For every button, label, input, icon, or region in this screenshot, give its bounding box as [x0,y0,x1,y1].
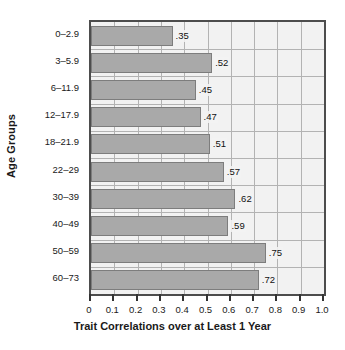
x-axis-tick-mark [299,294,301,301]
bar-value-label: .51 [212,138,227,150]
bar-value-label: .59 [230,220,245,232]
x-axis-tick-label: 0.1 [106,303,119,316]
y-axis-tick-labels: 0–2.93–5.96–11.912–17.918–21.922–2930–39… [22,20,83,292]
bar [91,53,212,73]
x-axis-tick-label: 0.4 [176,303,189,316]
x-axis-tick-labels: 00.10.20.30.40.50.60.70.80.91.0 [89,303,322,316]
y-axis-tick-label: 60–73 [53,272,79,284]
bar-series: .35.52.45.47.51.57.62.59.75.72 [91,22,324,294]
bar-value-label: .47 [203,111,218,123]
bar [91,26,173,46]
bar-chart-figure: Age Groups 0–2.93–5.96–11.912–17.918–21.… [0,0,345,350]
bar-value-label: .75 [268,247,283,259]
x-axis-tick-label: 0.5 [199,303,212,316]
x-axis-tick-mark [275,294,277,301]
x-axis-tick-label: 0.3 [152,303,165,316]
x-axis-tick-mark [89,294,91,301]
bar [91,216,228,236]
x-axis-tick-label: 0.6 [222,303,235,316]
x-axis-tick-label: 0.8 [269,303,282,316]
x-axis-tick-label: 0.2 [129,303,142,316]
x-axis-tick-label: 1.0 [315,303,328,316]
y-axis-tick-label: 30–39 [53,191,79,203]
bar [91,189,235,209]
y-axis-tick-label: 18–21.9 [45,136,79,148]
bar [91,270,259,290]
y-axis-tick-label: 6–11.9 [51,82,79,94]
x-axis-tick-label: 0.9 [292,303,305,316]
y-axis-title: Age Groups [0,0,22,292]
x-axis-tick-mark [252,294,254,301]
x-axis-title: Trait Correlations over at Least 1 Year [0,320,345,332]
y-axis-tick-label: 3–5.9 [55,55,79,67]
bar-value-label: .62 [237,193,252,205]
y-axis-tick-label: 22–29 [53,164,79,176]
x-axis-tick-mark [136,294,138,301]
x-axis-tick-mark [322,294,324,301]
bar [91,107,201,127]
x-axis-tick-mark [159,294,161,301]
bar [91,243,266,263]
x-axis-tick-mark [182,294,184,301]
y-axis-tick-label: 40–49 [53,218,79,230]
y-axis-tick-label: 50–59 [53,245,79,257]
plot-area: .35.52.45.47.51.57.62.59.75.72 [89,20,326,296]
bar-value-label: .45 [198,84,213,96]
bar-value-label: .52 [214,57,229,69]
bar-value-label: .57 [226,166,241,178]
bar [91,162,224,182]
bar-value-label: .72 [261,274,276,286]
y-axis-tick-label: 12–17.9 [45,109,79,121]
y-axis-title-text: Age Groups [5,114,17,178]
x-axis-tick-mark [229,294,231,301]
x-axis-tick-label: 0.7 [245,303,258,316]
bar-value-label: .35 [175,30,190,42]
x-axis-tick-mark [112,294,114,301]
y-axis-tick-label: 0–2.9 [55,28,79,40]
bar [91,134,210,154]
x-axis-tick-marks [89,294,322,301]
bar [91,80,196,100]
x-axis-tick-label: 0 [86,303,91,316]
x-axis-tick-mark [206,294,208,301]
